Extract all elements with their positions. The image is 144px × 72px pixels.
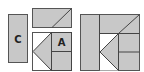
piece-top-rectangle — [33, 9, 72, 28]
piece-lower-square: A — [33, 33, 72, 71]
assembled-square — [81, 15, 140, 71]
piece-a-label: A — [58, 37, 66, 48]
puzzle-diagram: C A — [0, 0, 144, 72]
piece-c: C — [9, 15, 28, 63]
piece-c-label: C — [14, 34, 21, 45]
